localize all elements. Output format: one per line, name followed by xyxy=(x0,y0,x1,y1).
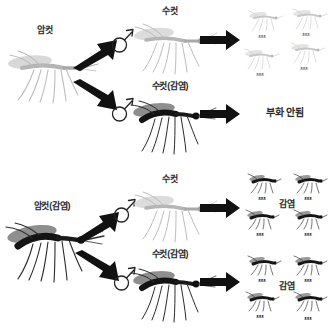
offspring-egg-mark: ᴥᴥᴥ xyxy=(304,232,312,237)
mosquito-cross-diagram: 암컷 xyxy=(0,0,329,332)
offspring-egg-mark: ᴥᴥᴥ xyxy=(258,196,266,201)
offspring-egg-mark: ᴥᴥᴥ xyxy=(304,196,312,201)
offspring-mosquito-icon xyxy=(294,290,328,312)
offspring-cluster-infected-2: ᴥᴥᴥ ᴥᴥᴥ xyxy=(246,254,328,328)
offspring-mosquito-icon xyxy=(246,208,280,230)
offspring-mosquito-icon xyxy=(294,172,328,194)
offspring-mosquito-icon xyxy=(248,172,282,194)
offspring-cluster-uninfected-1: ᴥᴥᴥ ᴥᴥᴥ xyxy=(248,8,326,82)
cross-section-uninfected-female: 암컷 xyxy=(0,0,329,166)
offspring-egg-mark: ᴥᴥᴥ xyxy=(304,316,312,321)
offspring-mosquito-icon xyxy=(244,46,280,70)
offspring-egg-mark: ᴥᴥᴥ xyxy=(300,66,308,71)
mate-label-male-infected-1: 수컷(감염) xyxy=(152,82,189,91)
outcome-label-infected-1: 감염 xyxy=(279,200,295,209)
result-arrow-icon-3 xyxy=(200,198,240,218)
offspring-mosquito-icon xyxy=(292,6,328,30)
offspring-mosquito-icon xyxy=(248,8,284,32)
offspring-egg-mark: ᴥᴥᴥ xyxy=(256,72,264,77)
parent-label-female: 암컷 xyxy=(37,26,53,35)
result-arrow-icon-4 xyxy=(200,272,240,292)
result-arrow-icon-1 xyxy=(200,30,240,50)
offspring-mosquito-icon xyxy=(294,254,328,276)
offspring-egg-mark: ᴥᴥᴥ xyxy=(258,34,266,39)
offspring-egg-mark: ᴥᴥᴥ xyxy=(258,278,266,283)
offspring-mosquito-icon xyxy=(246,290,280,312)
offspring-mosquito-icon xyxy=(294,208,328,230)
mate-label-male-uninfected-1: 수컷 xyxy=(162,7,178,16)
offspring-egg-mark: ᴥᴥᴥ xyxy=(256,314,264,319)
cross-section-infected-female: 암컷(감염) xyxy=(0,166,329,332)
offspring-egg-mark: ᴥᴥᴥ xyxy=(256,232,264,237)
mate-label-male-infected-2: 수컷(감염) xyxy=(152,250,189,259)
offspring-mosquito-icon xyxy=(248,254,282,276)
outcome-label-no-hatch: 부화 안됨 xyxy=(266,108,304,118)
offspring-egg-mark: ᴥᴥᴥ xyxy=(302,32,310,37)
offspring-mosquito-icon xyxy=(290,40,326,64)
offspring-egg-mark: ᴥᴥᴥ xyxy=(304,278,312,283)
parent-label-female-infected: 암컷(감염) xyxy=(34,202,71,211)
outcome-label-infected-2: 감염 xyxy=(279,282,295,291)
result-arrow-icon-2 xyxy=(200,104,240,124)
offspring-cluster-infected-1: ᴥᴥᴥ ᴥᴥᴥ xyxy=(246,172,328,246)
mate-label-male-uninfected-2: 수컷 xyxy=(162,175,178,184)
